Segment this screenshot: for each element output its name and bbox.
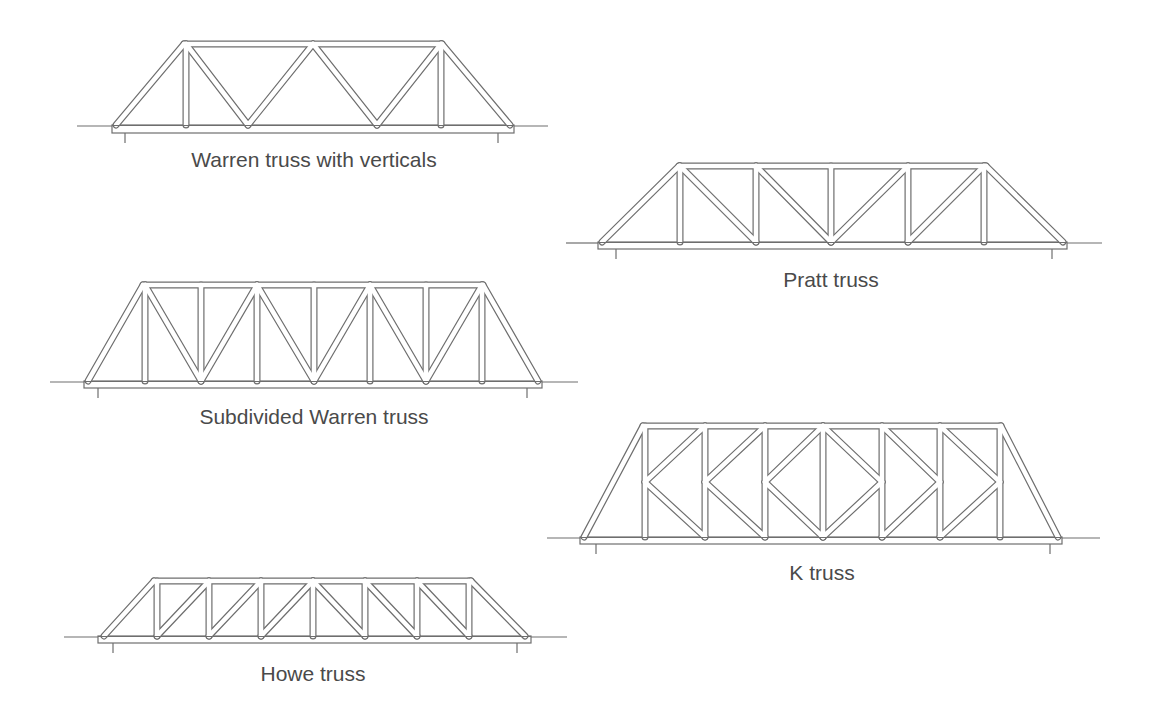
label-subdivided-warren-truss: Subdivided Warren truss: [199, 405, 428, 429]
bottom-chord: [112, 125, 514, 133]
label-pratt-truss: Pratt truss: [783, 268, 879, 292]
truss-k-truss: [547, 426, 1100, 554]
label-warren-truss-with-verticals: Warren truss with verticals: [191, 148, 436, 172]
label-howe-truss: Howe truss: [260, 662, 365, 686]
truss-howe: [64, 581, 567, 653]
truss-subdivided-warren: [50, 285, 578, 398]
truss-drawings: [50, 44, 1102, 653]
truss-diagram-canvas: [0, 0, 1159, 719]
truss-pratt: [566, 166, 1102, 259]
label-k-truss: K truss: [789, 561, 854, 585]
truss-warren-verticals: [77, 44, 548, 143]
